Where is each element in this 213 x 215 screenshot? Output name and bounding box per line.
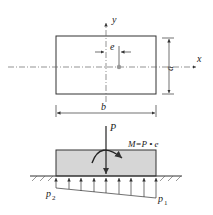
pressure-right-label: p bbox=[157, 193, 163, 204]
eccentric-load-diagram: e y x a b P M=P • e bbox=[0, 0, 213, 215]
pressure-arrows bbox=[56, 178, 156, 198]
force-label: P bbox=[109, 122, 116, 133]
pressure-left-sub: 2 bbox=[52, 194, 56, 202]
load-point bbox=[117, 65, 121, 69]
height-label: a bbox=[164, 66, 175, 71]
pressure-right-sub: 1 bbox=[164, 199, 168, 207]
width-label: b bbox=[101, 101, 106, 112]
side-view: P M=P • e p 2 p 1 bbox=[30, 122, 182, 207]
eccentricity-label: e bbox=[110, 41, 115, 52]
top-view: e y x a b bbox=[8, 14, 202, 117]
y-axis-label: y bbox=[111, 14, 117, 25]
moment-label: M=P • e bbox=[127, 139, 159, 149]
x-axis-label: x bbox=[196, 53, 202, 64]
ground-hatching bbox=[32, 176, 181, 181]
pressure-left-label: p bbox=[45, 188, 51, 199]
